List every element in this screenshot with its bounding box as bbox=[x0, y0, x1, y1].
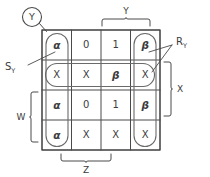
cell-r2-c0: α bbox=[53, 100, 60, 111]
cell-r3-c2: X bbox=[112, 130, 119, 140]
bracket-bottom-z bbox=[61, 154, 111, 163]
cell-r0-c2: 1 bbox=[113, 40, 119, 50]
cell-r3-c1: X bbox=[83, 130, 90, 140]
callout-label-r-y: RY bbox=[176, 37, 187, 50]
callout-label-s-y: SY bbox=[5, 62, 15, 75]
bracket-top-y bbox=[102, 18, 150, 27]
cell-r0-c1: 0 bbox=[83, 40, 89, 50]
cell-r1-c2: β bbox=[112, 70, 120, 81]
cell-r0-c3: β bbox=[141, 40, 149, 51]
cell-r1-c1: X bbox=[83, 70, 90, 80]
group-oval-row-2 bbox=[46, 64, 155, 87]
cell-r2-c3: β bbox=[141, 100, 149, 111]
circle-marker-y-label: Y bbox=[29, 12, 35, 22]
r-y-leader-lower bbox=[152, 45, 172, 72]
bracket-label-bottom-z: Z bbox=[83, 166, 89, 175]
cell-r1-c0: X bbox=[53, 70, 60, 80]
bracket-right-x bbox=[164, 62, 173, 116]
callout-r-sub: Y bbox=[183, 42, 187, 50]
karnaugh-map-diagram: Y SY RY Y Z X W α 0 1 β X X β X α 0 1 β … bbox=[0, 0, 210, 177]
cell-r3-c3: X bbox=[142, 130, 149, 140]
bracket-label-left-w: W bbox=[17, 113, 26, 122]
bracket-left-w bbox=[30, 92, 39, 142]
cell-r3-c0: α bbox=[53, 130, 60, 141]
bracket-label-top-y: Y bbox=[123, 7, 129, 16]
cell-r1-c3: X bbox=[142, 70, 149, 80]
bracket-label-right-x: X bbox=[177, 85, 183, 94]
callout-r-main: R bbox=[176, 36, 183, 47]
cell-r0-c0: α bbox=[53, 40, 60, 51]
cell-r2-c1: 0 bbox=[83, 100, 89, 110]
cell-r2-c2: 1 bbox=[113, 100, 119, 110]
callout-s-sub: Y bbox=[11, 67, 15, 75]
